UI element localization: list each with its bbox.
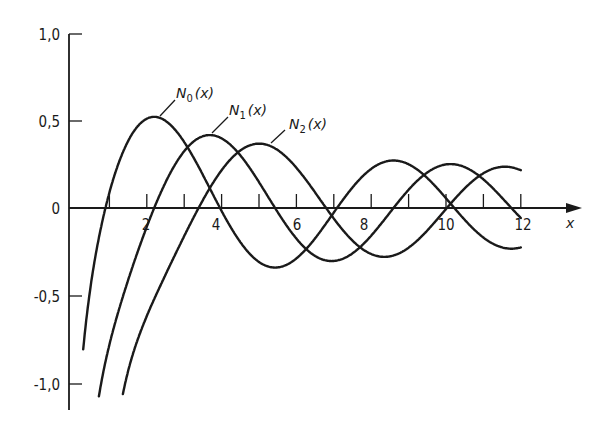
y-tick-label: 0,5 <box>39 113 60 131</box>
x-tick-label: 10 <box>437 216 454 234</box>
y-tick-label: -1,0 <box>34 376 60 394</box>
curve-n2 <box>123 144 521 394</box>
x-axis-label: x <box>565 215 575 231</box>
x-tick-label: 4 <box>212 216 221 234</box>
x-tick-label: 8 <box>360 216 369 234</box>
n0-leader-line <box>160 100 175 116</box>
n0-label: N0(x) <box>176 85 214 104</box>
curve-n1 <box>99 135 521 396</box>
x-tick-label: 12 <box>514 216 531 234</box>
n2-label: N2(x) <box>289 116 327 135</box>
n2-leader-line <box>271 130 285 143</box>
y-tick-label: 0 <box>51 200 60 218</box>
x-ticks <box>109 194 520 208</box>
y-tick-label: 1,0 <box>39 26 60 44</box>
x-tick-label: 6 <box>293 216 302 234</box>
n1-label: N1(x) <box>229 102 267 121</box>
x-axis-arrow-icon <box>566 203 582 213</box>
n1-leader-line <box>212 117 228 133</box>
bessel-second-kind-chart: 1,0 0,5 0 -0,5 -1,0 2 4 6 8 10 12 x N0(x… <box>0 0 606 428</box>
y-tick-label: -0,5 <box>34 288 60 306</box>
